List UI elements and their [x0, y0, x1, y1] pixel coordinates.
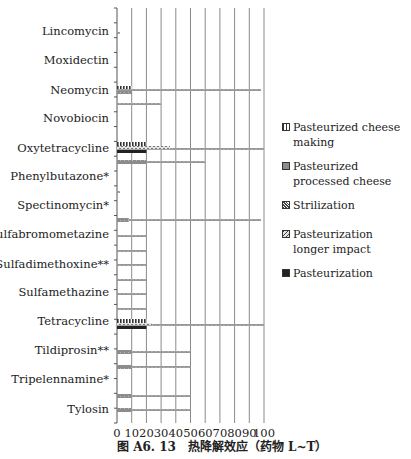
x-tick-label: 30 — [154, 426, 169, 440]
x-tick-label: 0 — [113, 426, 120, 440]
vertical-gridlines — [132, 8, 264, 423]
legend-label: Pasteurization — [293, 266, 411, 281]
category-label: Novobiocin — [43, 111, 109, 125]
bar-zigzag — [117, 264, 146, 266]
bar-zigzag — [132, 409, 191, 411]
bar-gray — [117, 350, 132, 354]
x-tick-label: 60 — [198, 426, 213, 440]
legend-item: Strilization — [282, 198, 411, 213]
bar-zigzag — [129, 219, 261, 221]
bar-zigzag — [117, 235, 146, 237]
bar-gray — [117, 365, 132, 369]
y-axis — [114, 8, 117, 423]
category-label: Spectinomycin* — [17, 198, 109, 212]
bar-zigzag — [132, 351, 191, 353]
bar-solid — [117, 326, 146, 329]
category-label: Neomycin — [50, 83, 109, 97]
bar-zigzag — [117, 191, 120, 193]
legend-label: Pasteurized processed cheese — [293, 159, 411, 189]
legend-label: Pasteurization longer impact — [293, 227, 411, 257]
legend-item: Pasteurized processed cheese — [282, 159, 411, 189]
category-label: Tripelennamine* — [11, 372, 109, 386]
legend-label: Pasteurized cheese making — [293, 120, 411, 150]
bar-zigzag — [170, 148, 264, 150]
bar-dotted — [117, 323, 152, 326]
bar-gray — [117, 160, 146, 164]
legend-swatch-zigzag-icon — [282, 201, 290, 209]
x-axis-tick-labels: 0102030405060708090100 — [113, 426, 275, 440]
bar-zigzag — [117, 32, 120, 34]
legend-swatch-dotted-icon — [282, 230, 290, 238]
bar-gray — [117, 394, 132, 398]
legend-item: Pasteurization — [282, 266, 411, 281]
category-label: Sulfadimethoxine** — [0, 257, 109, 271]
bar-gray — [117, 218, 129, 222]
category-label: Sulfamethazine — [18, 285, 109, 299]
category-label: Sulfabromometazine — [0, 227, 109, 241]
bar-vbars — [117, 86, 132, 89]
bar-zigzag — [132, 395, 191, 397]
bar-zigzag — [117, 250, 146, 252]
bar-dotted — [117, 146, 170, 150]
x-tick-label: 10 — [124, 426, 139, 440]
category-label: Moxidectin — [44, 53, 110, 67]
x-tick-label: 50 — [183, 426, 198, 440]
x-tick-label: 100 — [253, 426, 275, 440]
category-label: Tildiprosin** — [35, 343, 110, 357]
category-label: Tetracycline — [37, 314, 109, 328]
bar-solid — [117, 150, 146, 153]
category-label: Lincomycin — [42, 24, 110, 38]
figure-caption: 图 A6. 13 热降解效应（药物 L~T） — [117, 439, 328, 454]
bar-zigzag — [132, 366, 191, 368]
category-labels: LincomycinMoxidectinNeomycinNovobiocinOx… — [0, 24, 110, 416]
bar-zigzag — [117, 279, 146, 281]
bar-zigzag — [117, 89, 261, 91]
x-tick-label: 70 — [213, 426, 228, 440]
x-tick-label: 20 — [139, 426, 154, 440]
bar-vbars — [117, 319, 146, 323]
legend-item: Pasteurized cheese making — [282, 120, 411, 150]
bar-zigzag — [117, 103, 161, 105]
legend-label: Strilization — [293, 198, 411, 213]
bar-gray — [117, 91, 132, 94]
category-label: Oxytetracycline — [17, 141, 109, 155]
bar-zigzag — [152, 324, 264, 326]
legend-swatch-solid-icon — [282, 269, 290, 277]
bar-gray — [117, 408, 132, 412]
bar-zigzag — [146, 161, 205, 163]
x-tick-label: 80 — [227, 426, 242, 440]
category-label: Tylosin — [67, 402, 109, 416]
category-label: Phenylbutazone* — [10, 169, 109, 183]
bar-zigzag — [117, 308, 146, 310]
chart-legend: Pasteurized cheese makingPasteurized pro… — [282, 120, 411, 290]
legend-item: Pasteurization longer impact — [282, 227, 411, 257]
x-tick-label: 40 — [168, 426, 183, 440]
legend-swatch-gray-icon — [282, 162, 290, 170]
bar-zigzag — [117, 293, 146, 295]
legend-swatch-vbars-icon — [282, 123, 290, 131]
bar-vbars — [117, 142, 146, 146]
